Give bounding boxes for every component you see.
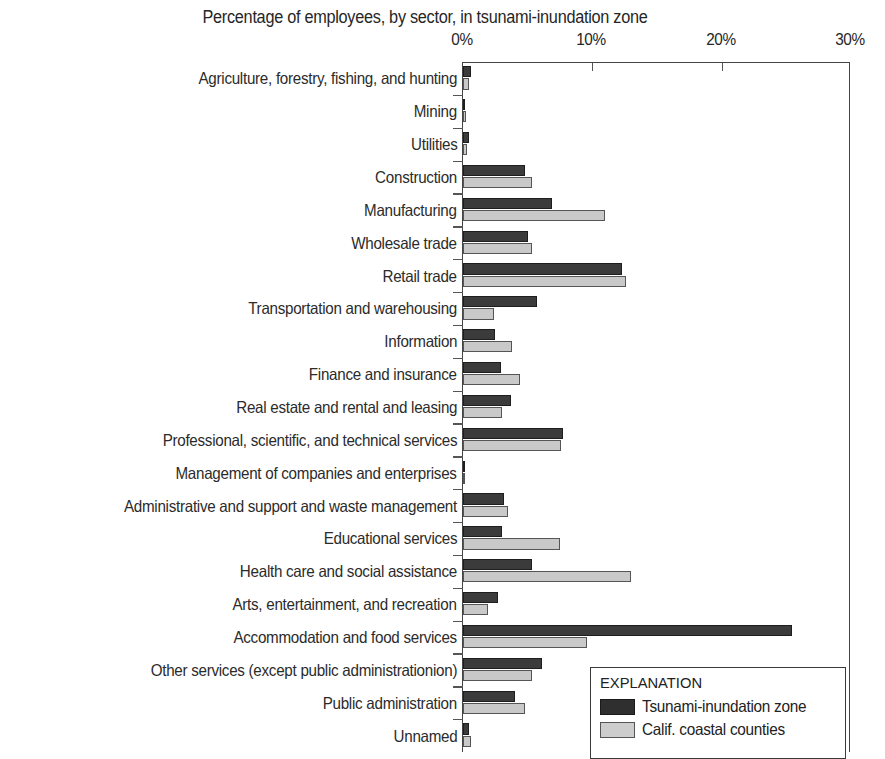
y-axis-tick <box>453 128 463 129</box>
legend-swatch-dark-icon <box>600 699 635 715</box>
bar-tsunami-zone <box>463 296 537 307</box>
bar-coastal-counties <box>463 506 508 517</box>
category-label: Agriculture, forestry, fishing, and hunt… <box>198 69 457 88</box>
y-axis-tick <box>453 653 463 654</box>
bar-tsunami-zone <box>463 395 511 406</box>
x-tick-label-30: 30% <box>835 30 865 49</box>
bar-row: Retail trade <box>0 259 885 292</box>
bar-tsunami-zone <box>463 493 504 504</box>
y-axis-tick <box>453 555 463 556</box>
bar-tsunami-zone <box>463 263 622 274</box>
bar-coastal-counties <box>463 538 560 549</box>
bar-coastal-counties <box>463 637 587 648</box>
category-label: Retail trade <box>383 266 457 285</box>
bar-row: Construction <box>0 161 885 194</box>
y-axis-tick <box>453 226 463 227</box>
bar-tsunami-zone <box>463 198 552 209</box>
category-label: Management of companies and enterprises <box>176 463 457 482</box>
bar-tsunami-zone <box>463 362 501 373</box>
legend-item-tsunami-inundation-zone: Tsunami-inundation zone <box>600 695 845 718</box>
y-axis-tick <box>453 621 463 622</box>
legend-label: Calif. coastal counties <box>642 720 785 739</box>
category-label: Finance and insurance <box>309 365 457 384</box>
category-label: Wholesale trade <box>351 233 457 252</box>
legend-item-calif-coastal-counties: Calif. coastal counties <box>600 718 845 741</box>
bar-coastal-counties <box>463 703 525 714</box>
legend-box: EXPLANATION Tsunami-inundation zone Cali… <box>590 667 846 759</box>
y-axis-tick <box>453 391 463 392</box>
bar-row: Professional, scientific, and technical … <box>0 423 885 456</box>
bar-tsunami-zone <box>463 165 525 176</box>
bar-tsunami-zone <box>463 559 532 570</box>
bar-row: Health care and social assistance <box>0 555 885 588</box>
bar-coastal-counties <box>463 276 626 287</box>
bar-row: Utilities <box>0 128 885 161</box>
bar-coastal-counties <box>463 308 494 319</box>
chart-title: Percentage of employees, by sector, in t… <box>30 7 821 28</box>
bar-row: Finance and insurance <box>0 358 885 391</box>
legend-title: EXPLANATION <box>600 674 833 692</box>
category-label: Unnamed <box>393 726 457 745</box>
bar-coastal-counties <box>463 111 466 122</box>
category-label: Arts, entertainment, and recreation <box>233 595 457 614</box>
bar-tsunami-zone <box>463 329 495 340</box>
category-label: Health care and social assistance <box>240 562 457 581</box>
category-label: Utilities <box>411 135 457 154</box>
category-label: Other services (except public administra… <box>150 660 457 679</box>
bar-row: Mining <box>0 95 885 128</box>
category-label: Information <box>384 332 457 351</box>
bar-coastal-counties <box>463 736 471 747</box>
bar-row: Arts, entertainment, and recreation <box>0 588 885 621</box>
bar-row: Educational services <box>0 522 885 555</box>
bar-row: Agriculture, forestry, fishing, and hunt… <box>0 62 885 95</box>
x-tick-label-10: 10% <box>577 30 607 49</box>
y-axis-tick <box>453 522 463 523</box>
bar-row: Real estate and rental and leasing <box>0 391 885 424</box>
y-axis-tick <box>453 325 463 326</box>
bar-tsunami-zone <box>463 625 792 636</box>
category-label: Mining <box>414 102 457 121</box>
category-label: Accommodation and food services <box>234 627 457 646</box>
y-axis-tick <box>453 161 463 162</box>
bar-tsunami-zone <box>463 526 502 537</box>
bar-row: Transportation and warehousing <box>0 292 885 325</box>
y-axis-tick <box>453 95 463 96</box>
category-label: Professional, scientific, and technical … <box>162 430 457 449</box>
category-label: Construction <box>375 167 457 186</box>
bar-coastal-counties <box>463 571 631 582</box>
y-axis-tick <box>453 719 463 720</box>
y-axis-tick <box>453 358 463 359</box>
y-axis-tick <box>453 456 463 457</box>
y-axis-tick <box>453 193 463 194</box>
bar-tsunami-zone <box>463 66 471 77</box>
bar-coastal-counties <box>463 210 605 221</box>
bar-coastal-counties <box>463 374 520 385</box>
category-label: Manufacturing <box>364 200 457 219</box>
bar-coastal-counties <box>463 177 532 188</box>
bar-coastal-counties <box>463 670 532 681</box>
y-axis-tick <box>453 423 463 424</box>
bar-row: Accommodation and food services <box>0 621 885 654</box>
category-label: Real estate and rental and leasing <box>236 397 457 416</box>
bar-coastal-counties <box>463 440 561 451</box>
x-tick-label-20: 20% <box>706 30 736 49</box>
bar-coastal-counties <box>463 78 469 89</box>
legend-label: Tsunami-inundation zone <box>642 697 806 716</box>
bar-tsunami-zone <box>463 428 563 439</box>
category-label: Educational services <box>323 529 457 548</box>
bar-row: Management of companies and enterprises <box>0 456 885 489</box>
y-axis-tick <box>453 489 463 490</box>
bar-tsunami-zone <box>463 691 515 702</box>
bar-row: Information <box>0 325 885 358</box>
category-label: Public administration <box>323 693 457 712</box>
x-tick-label-0: 0% <box>451 30 472 49</box>
y-axis-tick <box>453 686 463 687</box>
x-axis-tick-labels: 0%10%20%30% <box>462 30 850 52</box>
bar-tsunami-zone <box>463 723 469 734</box>
bar-coastal-counties <box>463 407 502 418</box>
bar-tsunami-zone <box>463 99 465 110</box>
bar-coastal-counties <box>463 341 512 352</box>
bar-tsunami-zone <box>463 132 469 143</box>
bar-tsunami-zone <box>463 461 465 472</box>
